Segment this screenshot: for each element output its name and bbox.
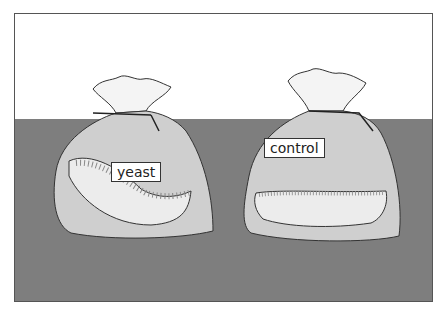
yeast-bag xyxy=(54,76,213,238)
bag-label-control: control xyxy=(264,138,325,158)
illustration-frame: yeast control xyxy=(14,13,433,302)
bags-drawing xyxy=(15,14,432,301)
bag-label-yeast: yeast xyxy=(111,162,161,182)
